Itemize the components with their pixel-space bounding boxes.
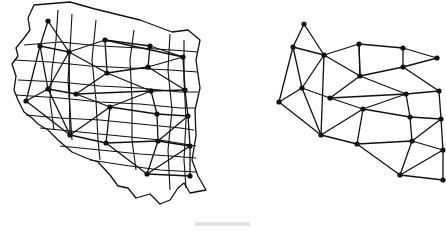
- network-edge: [330, 98, 363, 109]
- network-node: [144, 171, 149, 176]
- network-node: [148, 88, 153, 93]
- grid-line: [92, 20, 100, 160]
- network-node: [45, 86, 50, 91]
- network-edge: [70, 135, 106, 143]
- network-edge: [105, 40, 183, 57]
- network-node: [66, 49, 71, 54]
- network-node: [187, 143, 192, 148]
- network-edge: [406, 91, 439, 94]
- map-grid-lines: [14, 10, 198, 190]
- network-edge: [48, 89, 76, 94]
- network-node: [180, 54, 185, 59]
- network-node: [103, 140, 108, 145]
- network-node: [155, 138, 160, 143]
- network-edge: [302, 55, 324, 88]
- network-edge: [48, 52, 69, 89]
- network-edge: [279, 47, 293, 102]
- network-edge: [26, 89, 48, 101]
- grid-line: [130, 30, 136, 170]
- network-edge: [359, 44, 403, 48]
- network-edge: [412, 119, 441, 141]
- network-edge: [324, 44, 359, 55]
- network-edge: [360, 67, 403, 76]
- network-edge: [76, 73, 107, 94]
- network-node: [185, 113, 190, 118]
- network-node: [400, 64, 405, 69]
- network-node: [397, 172, 402, 177]
- network-edge: [106, 107, 110, 143]
- network-node: [290, 44, 295, 49]
- network-node: [102, 37, 107, 42]
- left-map-panel: [12, 2, 206, 204]
- network-node: [360, 106, 365, 111]
- network-node: [154, 111, 159, 116]
- network-edge: [151, 91, 157, 114]
- network-node: [107, 104, 112, 109]
- network-edge: [48, 21, 69, 52]
- network-edge: [321, 109, 363, 135]
- network-edge: [360, 76, 406, 94]
- network-edge: [76, 91, 151, 94]
- network-node: [182, 87, 187, 92]
- grid-line: [168, 34, 172, 190]
- network-node: [276, 99, 281, 104]
- network-edge: [412, 141, 443, 150]
- network-edge: [400, 175, 443, 180]
- grid-line: [24, 42, 198, 52]
- network-node: [23, 98, 28, 103]
- network-node: [400, 45, 405, 50]
- network-edge: [105, 40, 107, 73]
- network-node: [327, 95, 332, 100]
- network-edge: [410, 117, 412, 141]
- network-edge: [26, 46, 40, 101]
- network-node: [436, 88, 441, 93]
- network-edge: [70, 107, 110, 135]
- network-node: [356, 41, 361, 46]
- right-network-nodes: [276, 21, 445, 182]
- network-node: [187, 173, 192, 178]
- network-node: [301, 21, 306, 26]
- network-node: [147, 43, 152, 48]
- right-network-edges: [279, 24, 443, 180]
- network-node: [409, 138, 414, 143]
- grid-line: [50, 10, 58, 130]
- grid-line: [184, 40, 186, 188]
- network-edge: [293, 24, 304, 47]
- network-edge: [357, 109, 363, 144]
- network-edge: [324, 55, 360, 76]
- network-edge: [106, 143, 147, 174]
- network-node: [104, 70, 109, 75]
- network-node: [145, 64, 150, 69]
- network-edge: [148, 57, 183, 67]
- network-edge: [157, 114, 188, 116]
- network-node: [73, 91, 78, 96]
- network-node: [318, 132, 323, 137]
- network-edge: [302, 88, 330, 98]
- network-node: [438, 116, 443, 121]
- network-edge: [293, 47, 302, 88]
- network-edge: [147, 174, 190, 176]
- network-edge: [157, 114, 158, 141]
- network-edge: [410, 117, 441, 119]
- network-node: [440, 147, 445, 152]
- network-edge: [107, 73, 151, 91]
- network-node: [321, 52, 326, 57]
- network-node: [407, 114, 412, 119]
- network-edge: [40, 21, 48, 46]
- grid-line: [26, 115, 194, 130]
- right-network-panel: [276, 21, 445, 182]
- network-edge: [357, 144, 400, 175]
- network-edge: [40, 46, 48, 89]
- network-node: [440, 177, 445, 182]
- network-node: [299, 85, 304, 90]
- network-edge: [330, 76, 360, 98]
- network-edge: [357, 141, 412, 144]
- network-edge: [110, 107, 157, 114]
- figure-canvas: [0, 0, 446, 231]
- caption-fragment: [195, 222, 250, 226]
- network-edge: [441, 119, 443, 150]
- network-edge: [363, 109, 410, 117]
- network-node: [37, 43, 42, 48]
- network-node: [45, 18, 50, 23]
- network-node: [357, 73, 362, 78]
